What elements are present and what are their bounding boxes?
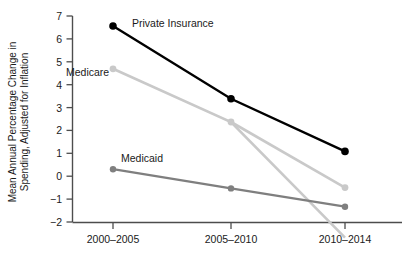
data-point-medicare-0 — [110, 65, 117, 72]
data-point-medicaid-2 — [342, 204, 348, 210]
y-tick-label-neg1: −1 — [50, 193, 62, 205]
y-axis-title-line1: Mean Annual Percentage Change in — [7, 42, 18, 203]
y-axis-ticks — [67, 16, 73, 222]
x-tick-label-2000-2005: 2000–2005 — [87, 233, 140, 245]
y-tick-label-neg2: −2 — [50, 216, 62, 228]
y-tick-label-7: 7 — [56, 10, 62, 22]
y-tick-label-5: 5 — [56, 56, 62, 68]
data-point-medicaid-0 — [110, 166, 116, 172]
x-tick-label-2005-2010: 2005–2010 — [205, 233, 258, 245]
series-medicare-line-seg2 — [231, 122, 345, 188]
data-point-private-insurance-0 — [109, 22, 117, 30]
x-axis-ticks — [113, 223, 345, 230]
y-tick-label-1: 1 — [56, 147, 62, 159]
series-label-private-insurance: Private Insurance — [132, 17, 214, 29]
y-tick-label-6: 6 — [56, 33, 62, 45]
y-tick-label-4: 4 — [56, 79, 62, 91]
data-point-medicaid-1 — [228, 185, 234, 191]
series-label-medicare: Medicare — [66, 66, 109, 78]
y-tick-label-3: 3 — [56, 102, 62, 114]
chart-figure: 7 6 5 4 3 2 1 0 −1 −2 2000–2005 2005–201… — [0, 0, 409, 256]
series-label-medicaid: Medicaid — [121, 152, 163, 164]
y-axis-title-line2: Spending, Adjusted for Inflation — [19, 53, 30, 191]
x-tick-label-2010-2014: 2010–2014 — [319, 233, 372, 245]
line-chart: 7 6 5 4 3 2 1 0 −1 −2 2000–2005 2005–201… — [0, 0, 409, 256]
y-tick-label-2: 2 — [56, 124, 62, 136]
data-point-private-insurance-2 — [341, 148, 349, 156]
series-private-insurance — [109, 22, 349, 155]
series-private-insurance-line — [113, 26, 345, 151]
y-tick-label-0: 0 — [56, 170, 62, 182]
data-point-private-insurance-1 — [227, 95, 235, 103]
